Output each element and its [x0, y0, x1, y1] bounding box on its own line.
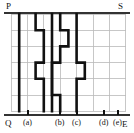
lattice-path-figure: P S Q E (a)(b)(c)(d)(e): [0, 0, 134, 133]
frame-rules: [4, 13, 130, 115]
corner-label-top-right: S: [118, 2, 123, 11]
corner-label-top-left: P: [6, 2, 11, 11]
path-e: [77, 14, 85, 111]
bottom-tick-label: (a): [23, 119, 32, 127]
lattice-svg: [0, 0, 134, 133]
bottom-tick-label: (b): [55, 119, 64, 127]
path-b: [36, 14, 44, 111]
tick-marks: [28, 110, 118, 115]
bottom-tick-label: (d): [99, 119, 108, 127]
bottom-tick-label: (c): [72, 119, 81, 127]
bottom-tick-label: (e): [113, 119, 122, 127]
grid-lines: [11, 14, 126, 111]
corner-label-bottom-right: E: [122, 120, 128, 129]
corner-label-bottom-left: Q: [5, 119, 12, 128]
